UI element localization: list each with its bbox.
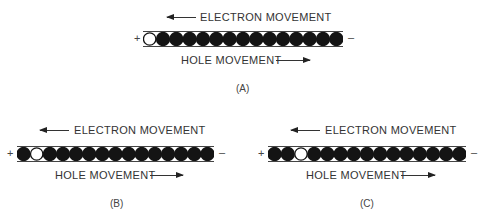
electron	[439, 147, 453, 161]
electron	[373, 147, 387, 161]
electron-movement-label: ELECTRON MOVEMENT	[325, 124, 457, 136]
electron-arrow-left-icon	[291, 130, 320, 131]
electron	[452, 147, 466, 161]
electron	[320, 147, 334, 161]
electron	[399, 147, 413, 161]
panel-c: ELECTRON MOVEMENT + – HOLE MOVEMENT (C)	[0, 0, 483, 219]
electron	[413, 147, 427, 161]
electron	[347, 147, 361, 161]
electron	[386, 147, 400, 161]
electron	[281, 147, 295, 161]
electron	[426, 147, 440, 161]
hole-movement-label: HOLE MOVEMENT	[306, 169, 406, 181]
conductor-bar	[268, 146, 466, 162]
panel-caption: (C)	[360, 198, 374, 210]
electron	[333, 147, 347, 161]
hole-arrow-right-icon	[401, 175, 435, 176]
positive-terminal: +	[258, 147, 264, 159]
electron-row	[268, 147, 466, 161]
electron	[268, 147, 282, 161]
hole	[295, 148, 307, 160]
electron	[307, 147, 321, 161]
negative-terminal: –	[471, 146, 477, 158]
electron	[360, 147, 374, 161]
